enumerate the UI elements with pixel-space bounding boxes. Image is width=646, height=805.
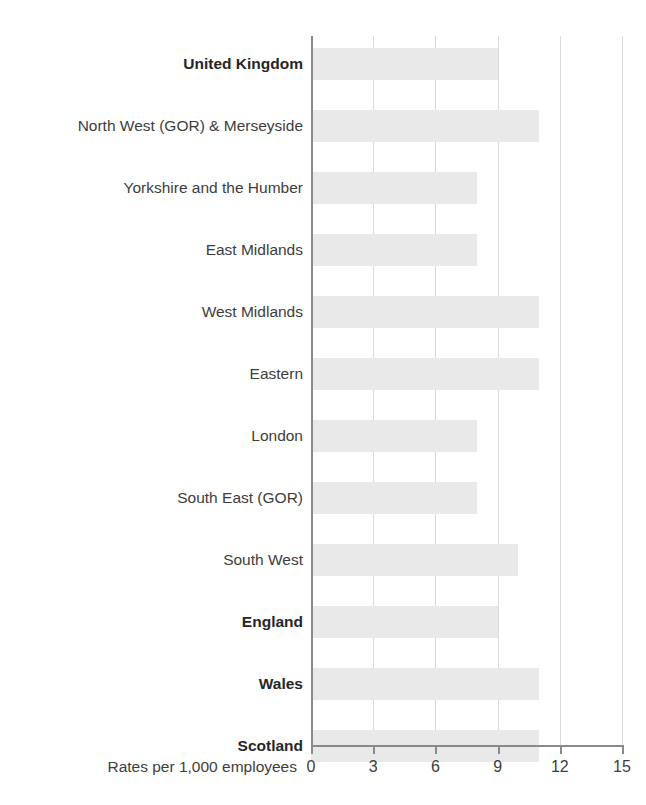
- category-label: North West (GOR) & Merseyside: [3, 117, 303, 135]
- category-label: Scotland: [3, 737, 303, 755]
- bar: [311, 420, 477, 452]
- category-label: Wales: [3, 675, 303, 693]
- gridline-3: [373, 36, 374, 745]
- category-label: East Midlands: [3, 241, 303, 259]
- bar-row: [311, 606, 622, 638]
- bar: [311, 544, 518, 576]
- category-label: England: [3, 613, 303, 631]
- plot-area: [311, 36, 622, 745]
- bar-row: [311, 482, 622, 514]
- bar-row: [311, 172, 622, 204]
- x-tick-mark: [622, 745, 624, 754]
- x-tick-label: 3: [353, 758, 393, 776]
- x-tick-label: 9: [478, 758, 518, 776]
- bar: [311, 668, 539, 700]
- bar-row: [311, 234, 622, 266]
- bar: [311, 606, 498, 638]
- category-label: South East (GOR): [3, 489, 303, 507]
- bar: [311, 48, 498, 80]
- bar: [311, 234, 477, 266]
- bar: [311, 482, 477, 514]
- bar-row: [311, 544, 622, 576]
- x-tick-label: 15: [602, 758, 642, 776]
- x-tick-mark: [498, 745, 500, 754]
- bar: [311, 358, 539, 390]
- x-tick-mark: [311, 745, 313, 754]
- x-tick-mark: [435, 745, 437, 754]
- bar-row: [311, 420, 622, 452]
- category-label: London: [3, 427, 303, 445]
- x-tick-label: 6: [415, 758, 455, 776]
- x-tick-mark: [373, 745, 375, 754]
- category-label: South West: [3, 551, 303, 569]
- gridline-9: [498, 36, 499, 745]
- y-axis-line: [311, 36, 313, 746]
- bar-row: [311, 110, 622, 142]
- x-axis-title: Rates per 1,000 employees: [107, 758, 297, 776]
- bar: [311, 296, 539, 328]
- bar-chart: United KingdomNorth West (GOR) & Merseys…: [0, 0, 646, 805]
- bar: [311, 172, 477, 204]
- category-label: West Midlands: [3, 303, 303, 321]
- category-label: United Kingdom: [3, 55, 303, 73]
- bar: [311, 110, 539, 142]
- x-tick-mark: [560, 745, 562, 754]
- gridline-6: [435, 36, 436, 745]
- gridline-12: [560, 36, 561, 745]
- category-label: Eastern: [3, 365, 303, 383]
- x-tick-label: 12: [540, 758, 580, 776]
- bar-row: [311, 358, 622, 390]
- gridline-15: [622, 36, 623, 745]
- bar-row: [311, 296, 622, 328]
- x-tick-label: 0: [291, 758, 331, 776]
- bar-row: [311, 48, 622, 80]
- category-label: Yorkshire and the Humber: [3, 179, 303, 197]
- x-axis-line: [311, 745, 623, 747]
- bar-row: [311, 668, 622, 700]
